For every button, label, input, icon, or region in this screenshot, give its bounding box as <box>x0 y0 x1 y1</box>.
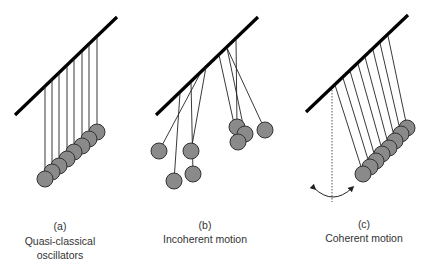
panel-c-tag: (c) <box>339 217 389 231</box>
panel-b-caption: Incoherent motion <box>150 232 260 246</box>
panel-a-oscillators <box>15 17 117 187</box>
panel-c-coherent <box>306 15 415 202</box>
support-bar <box>156 17 258 115</box>
balls <box>37 124 105 187</box>
swing-arrow-icon <box>314 188 352 197</box>
support-bar <box>15 17 117 115</box>
panel-a-tag: (a) <box>35 219 85 233</box>
panel-a-caption-line2: oscillators <box>10 248 110 262</box>
balls <box>355 120 415 182</box>
balls <box>151 119 273 189</box>
panel-b-incoherent <box>151 17 273 189</box>
panel-b-tag: (b) <box>180 218 230 232</box>
panel-c-caption: Coherent motion <box>309 231 419 245</box>
panel-a-caption-line1: Quasi-classical <box>10 234 110 248</box>
